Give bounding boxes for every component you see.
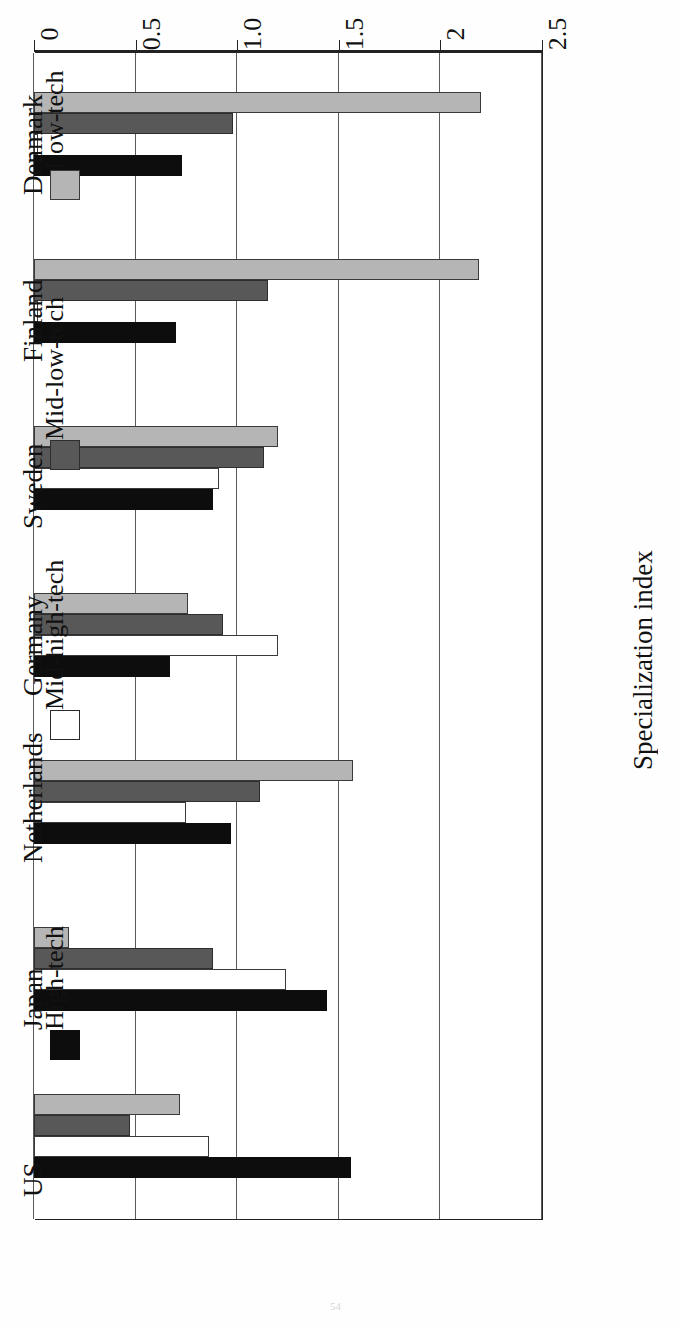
category-label-finland: Finland <box>18 280 49 363</box>
legend-swatch-icon <box>50 710 80 740</box>
category-label-sweden: Sweden <box>18 444 49 529</box>
axis-tick <box>34 40 35 52</box>
category-label-netherlands: Netherlands <box>18 732 49 862</box>
plot-area <box>35 52 543 1220</box>
rotated-chart-figure: 00.51.01.522.5 Specialization index High… <box>0 0 678 1330</box>
bar-group <box>35 885 542 1052</box>
category-label-us: US <box>18 1162 49 1197</box>
category-label-japan: Japan <box>18 968 49 1029</box>
axis-tick-label: 1.5 <box>340 18 370 51</box>
bar-low-tech-netherlands <box>34 760 353 781</box>
bar-group <box>35 1052 542 1219</box>
legend-swatch-icon <box>50 170 80 200</box>
bar-group <box>35 385 542 552</box>
bar-group <box>35 718 542 885</box>
axis-title: Specialization index <box>628 550 659 770</box>
axis-tick-label: 2.5 <box>543 18 573 51</box>
bar-group <box>35 51 542 218</box>
legend-swatch-icon <box>50 440 80 470</box>
axis-tick-label: 0.5 <box>137 18 167 51</box>
bar-low-tech-finland <box>34 259 479 280</box>
legend-swatch-icon <box>50 1030 80 1060</box>
axis-tick-label: 1.0 <box>238 18 268 51</box>
axis-tick-label: 2 <box>441 28 471 41</box>
value-axis: 00.51.01.522.5 <box>35 50 543 52</box>
bar-group <box>35 218 542 385</box>
bar-high-tech-us <box>34 1157 351 1178</box>
axis-tick <box>440 40 441 52</box>
page-folio: 54 <box>330 1300 341 1312</box>
bar-low-tech-denmark <box>34 92 481 113</box>
category-label-germany: Germany <box>18 596 49 696</box>
bar-group <box>35 552 542 719</box>
figure-page: 00.51.01.522.5 Specialization index High… <box>0 0 678 1330</box>
axis-tick-label: 0 <box>35 28 65 41</box>
category-label-denmark: Denmark <box>18 95 49 195</box>
